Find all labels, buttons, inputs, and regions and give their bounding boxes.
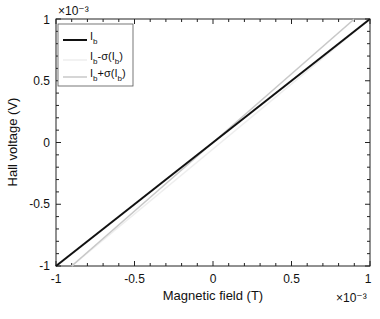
x-tick-label: 0 — [210, 272, 217, 286]
x-multiplier: ×10⁻³ — [336, 291, 367, 305]
x-tick-label: 0.5 — [283, 272, 300, 286]
y-tick-label: -1 — [39, 259, 50, 273]
x-tick-label: -1 — [51, 272, 62, 286]
y-tick-labels: -1 -0.5 0 0.5 1 — [29, 13, 50, 273]
x-tick-labels: -1 -0.5 0 0.5 1 — [51, 272, 372, 286]
x-tick-label: -0.5 — [124, 272, 145, 286]
x-axis-label: Magnetic field (T) — [163, 288, 263, 303]
y-multiplier: ×10⁻³ — [58, 4, 89, 18]
x-tick-label: 1 — [365, 272, 372, 286]
chart: -1 -0.5 0 0.5 1 -1 -0.5 0 0.5 1 ×10⁻³ ×1… — [0, 0, 380, 319]
y-tick-label: 1 — [43, 13, 50, 27]
y-axis-label: Hall voltage (V) — [5, 98, 20, 187]
y-tick-label: 0 — [43, 136, 50, 150]
y-tick-label: 0.5 — [33, 74, 50, 88]
y-tick-label: -0.5 — [29, 197, 50, 211]
legend: Ib Ib-σ(Ib) Ib+σ(Ib) — [58, 24, 133, 86]
